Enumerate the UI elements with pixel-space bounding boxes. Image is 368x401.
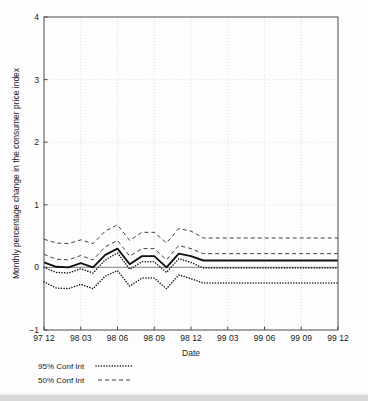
x-tick-label: 98 03: [70, 333, 92, 343]
y-tick-label: 1: [34, 200, 39, 210]
fan-chart-svg: 43210−1 97 1298 0398 0698 0998 1299 0399…: [0, 0, 368, 401]
y-axis-label: Monthly percentage change in the consume…: [11, 67, 21, 279]
x-tick-label: 98 06: [107, 333, 129, 343]
x-tick-label: 99 06: [254, 333, 276, 343]
y-tick-label: 3: [34, 75, 39, 85]
x-tick-label: 99 12: [327, 333, 349, 343]
x-tick-label: 99 09: [291, 333, 313, 343]
y-tick-label: 0: [34, 262, 39, 272]
y-tick-label: 4: [34, 12, 39, 22]
y-tick-label: 2: [34, 137, 39, 147]
page-edge-shadow: [0, 395, 368, 401]
legend-label-50: 50% Conf Int: [38, 376, 85, 385]
x-tick-label: 99 03: [217, 333, 239, 343]
x-tick-label: 97 12: [33, 333, 55, 343]
x-tick-label: 98 12: [180, 333, 202, 343]
legend-label-95: 95% Conf Int: [38, 362, 85, 371]
x-axis-label: Date: [182, 348, 200, 358]
x-axis-ticks: 97 1298 0398 0698 0998 1299 0399 0699 09…: [33, 327, 349, 344]
figure-root: 43210−1 97 1298 0398 0698 0998 1299 0399…: [0, 0, 368, 401]
chart-container: 43210−1 97 1298 0398 0698 0998 1299 0399…: [0, 0, 368, 401]
x-tick-label: 98 09: [144, 333, 166, 343]
